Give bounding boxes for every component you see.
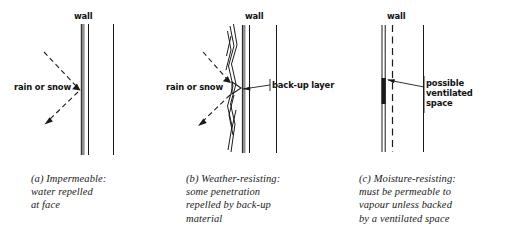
caption-b-line-4: material [186,212,280,225]
panel-impermeable: wall rain or snow (a) Impermeable: water… [0,0,170,235]
caption-c-line-4: by a ventilated space [359,212,456,225]
caption-c: (c) Moisture-resisting: must be permeabl… [359,172,456,225]
panel-weather-resisting: wall rain or snow back-up layer [160,0,340,235]
panel-moisture-resisting: wall possible ventilated space (c) Moist… [330,0,507,235]
ventilated-space-leader-head [387,79,395,83]
caption-c-line-2: must be permeable to [359,185,456,198]
caption-a-line-2: water repelled [31,185,106,198]
reflected-arrow-head-a [44,117,53,124]
caption-c-line-3: vapour unless backed [359,198,456,211]
caption-a: (a) Impermeable: water repelled at face [31,172,106,212]
reflected-arrow-head-b [198,119,207,126]
caption-b-line-3: repelled by back-up [186,198,280,211]
weather-resistance-figure: wall rain or snow (a) Impermeable: water… [0,0,507,235]
incoming-arrow-line-b [203,52,228,80]
caption-b-line-1: (b) Weather-resisting: [186,172,280,185]
caption-a-line-3: at face [31,198,106,211]
incoming-arrow-head-a [72,84,80,91]
incoming-arrow-line-a [44,52,78,88]
reflected-arrow-line-b [202,95,230,122]
reflected-arrow-line-a [48,92,78,121]
incoming-arrow-head-b [223,76,231,83]
caption-c-line-1: (c) Moisture-resisting: [359,172,456,185]
caption-a-line-1: (a) Impermeable: [31,172,106,185]
caption-b: (b) Weather-resisting: some penetration … [186,172,280,225]
caption-b-line-2: some penetration [186,185,280,198]
